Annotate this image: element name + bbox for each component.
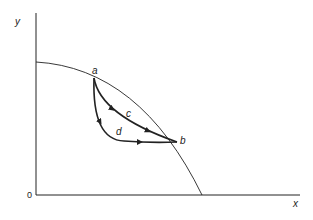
path-d	[94, 78, 177, 142]
point-b-label: b	[180, 135, 186, 146]
thermodynamic-paths-diagram: y x 0 a b c d	[0, 0, 313, 220]
diagram-canvas: y x 0 a b c d	[0, 0, 313, 220]
x-axis-label: x	[292, 198, 299, 209]
origin-label: 0	[27, 190, 32, 200]
point-a-label: a	[92, 65, 98, 76]
y-axis-label: y	[14, 16, 21, 27]
path-c-label: c	[126, 108, 131, 119]
path-d-label: d	[116, 126, 122, 137]
